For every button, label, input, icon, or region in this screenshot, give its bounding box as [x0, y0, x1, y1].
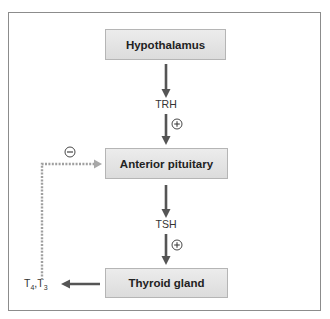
anterior-pituitary-box: Anterior pituitary: [105, 148, 228, 179]
t3-subscript: 3: [44, 284, 48, 291]
hypothalamus-label: Hypothalamus: [126, 39, 205, 51]
tsh-label: TSH: [146, 218, 186, 230]
thyroid-gland-label: Thyroid gland: [128, 277, 204, 289]
hypothalamus-box: Hypothalamus: [105, 29, 226, 60]
trh-label: TRH: [146, 98, 186, 110]
t4-t3-label: T4,T3: [24, 277, 60, 289]
anterior-pituitary-label: Anterior pituitary: [120, 158, 213, 170]
thyroid-gland-box: Thyroid gland: [105, 268, 228, 298]
